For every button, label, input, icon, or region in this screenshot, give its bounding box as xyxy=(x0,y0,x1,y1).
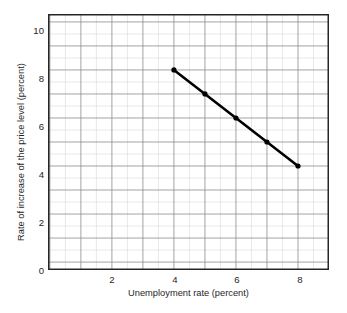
y-tick-label-10: 10 xyxy=(26,26,44,36)
x-tick-label-4: 4 xyxy=(163,274,187,285)
x-tick-label-2: 2 xyxy=(100,274,124,285)
axis-tick-marks xyxy=(48,22,298,270)
y-axis-tick-labels: 10 8 6 4 2 0 xyxy=(22,0,44,313)
x-tick-label-6: 6 xyxy=(225,274,249,285)
plot-canvas xyxy=(48,14,329,270)
x-tick-label-8: 8 xyxy=(288,274,312,285)
plot-area xyxy=(48,14,329,270)
x-axis-tick-labels: 2 4 6 8 xyxy=(0,274,347,288)
grid-major-lines xyxy=(48,14,329,270)
phillips-curve-chart: Rate of increase of the price level (per… xyxy=(0,0,347,313)
y-tick-label-6: 6 xyxy=(26,122,44,132)
y-tick-label-8: 8 xyxy=(26,74,44,84)
y-tick-label-4: 4 xyxy=(26,170,44,180)
y-tick-label-2: 2 xyxy=(26,218,44,228)
x-axis-title: Unemployment rate (percent) xyxy=(48,288,329,298)
